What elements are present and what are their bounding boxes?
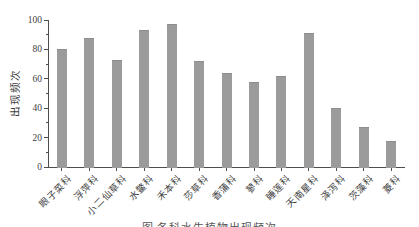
x-tick-mark — [281, 168, 282, 171]
bar — [386, 141, 396, 169]
y-minor-tick-mark — [46, 64, 49, 65]
y-tick-mark — [44, 137, 48, 138]
y-minor-tick-mark — [46, 122, 49, 123]
bar — [84, 38, 94, 168]
x-tick-mark — [308, 168, 309, 171]
x-tick-mark — [254, 168, 255, 171]
y-minor-tick-mark — [46, 34, 49, 35]
bar — [249, 82, 259, 168]
y-axis — [48, 20, 49, 167]
x-tick-mark — [391, 168, 392, 171]
y-tick-label: 60 — [0, 73, 42, 85]
bar — [194, 61, 204, 168]
y-tick-mark — [44, 20, 48, 21]
x-tick-mark — [89, 168, 90, 171]
bar — [359, 127, 369, 168]
bar — [276, 76, 286, 168]
x-tick-mark — [61, 168, 62, 171]
bar — [139, 30, 149, 168]
bar — [57, 49, 67, 168]
bar — [112, 60, 122, 168]
bar — [304, 33, 314, 168]
y-tick-label: 100 — [0, 14, 42, 26]
bar — [167, 24, 177, 168]
y-tick-mark — [44, 167, 48, 168]
y-tick-mark — [44, 108, 48, 109]
x-tick-mark — [363, 168, 364, 171]
bar — [331, 108, 341, 168]
y-tick-mark — [44, 78, 48, 79]
x-tick-mark — [144, 168, 145, 171]
y-tick-label: 0 — [0, 161, 42, 173]
y-tick-label: 20 — [0, 132, 42, 144]
figure-caption: 图 各科水生植物出现频次 — [0, 219, 419, 227]
y-tick-label: 80 — [0, 43, 42, 55]
y-tick-mark — [44, 49, 48, 50]
y-minor-tick-mark — [46, 93, 49, 94]
x-tick-mark — [171, 168, 172, 171]
x-tick-mark — [226, 168, 227, 171]
y-minor-tick-mark — [46, 152, 49, 153]
x-tick-mark — [199, 168, 200, 171]
bar — [222, 73, 232, 168]
x-tick-mark — [116, 168, 117, 171]
bar-chart-figure: 出现频次 020406080100 眼子菜科浮萍科小二仙草科水鳖科禾本科莎草科香… — [0, 0, 419, 227]
x-tick-mark — [336, 168, 337, 171]
y-tick-label: 40 — [0, 102, 42, 114]
